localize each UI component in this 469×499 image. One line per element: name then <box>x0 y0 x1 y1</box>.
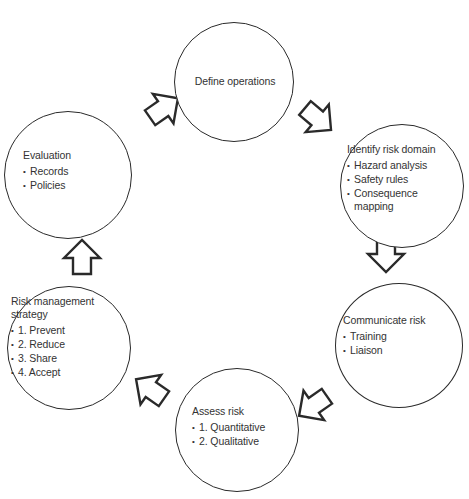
arrow-risk-management-to-evaluation <box>64 240 100 274</box>
node-title: Define operations <box>185 75 285 88</box>
node-communicate-risk: Communicate risk Training Liaison <box>335 283 463 408</box>
node-item-list: Records Policies <box>23 165 123 192</box>
node-title: Evaluation <box>23 149 123 162</box>
node-assess-risk: Assess risk 1. Quantitative 2. Qualitati… <box>175 368 299 492</box>
node-title: Identify risk domain <box>347 143 457 156</box>
list-item: 4. Accept <box>11 366 129 379</box>
block-arrow-icon <box>293 94 342 143</box>
node-item-list: Hazard analysis Safety rules Consequence… <box>347 159 457 213</box>
list-item: 1. Quantitative <box>192 421 292 434</box>
node-risk-management-strategy: Risk management strategy 1. Prevent 2. R… <box>7 286 131 410</box>
list-item: 2. Reduce <box>11 338 129 351</box>
list-item: Training <box>343 330 458 343</box>
arrow-assess-to-risk-management <box>126 365 174 414</box>
node-title: Risk management strategy <box>11 295 129 321</box>
list-item: 1. Prevent <box>11 324 129 337</box>
list-item: Safety rules <box>347 173 457 186</box>
node-item-list: 1. Quantitative 2. Qualitative <box>192 421 292 448</box>
list-item: 2. Qualitative <box>192 435 292 448</box>
arrow-define-operations-to-identify-risk-domain <box>293 94 342 143</box>
node-define-operations: Define operations <box>174 22 294 142</box>
list-item: 3. Share <box>11 352 129 365</box>
list-item: Consequence mapping <box>347 187 457 213</box>
node-title: Assess risk <box>192 405 292 418</box>
node-evaluation: Evaluation Records Policies <box>4 111 132 239</box>
list-item: Records <box>23 165 123 178</box>
block-arrow-icon <box>64 240 100 274</box>
list-item: Liaison <box>343 344 458 357</box>
node-title: Communicate risk <box>343 314 458 327</box>
block-arrow-icon <box>126 365 174 414</box>
list-item: Hazard analysis <box>347 159 457 172</box>
node-identify-risk-domain: Identify risk domain Hazard analysis Saf… <box>340 124 464 248</box>
list-item: Policies <box>23 179 123 192</box>
node-item-list: Training Liaison <box>343 330 458 357</box>
node-item-list: 1. Prevent 2. Reduce 3. Share 4. Accept <box>11 324 129 379</box>
